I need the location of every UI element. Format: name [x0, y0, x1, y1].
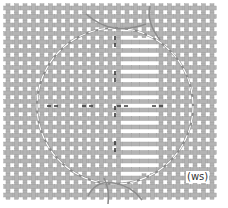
wrong-side-label: (ws) [186, 171, 209, 183]
